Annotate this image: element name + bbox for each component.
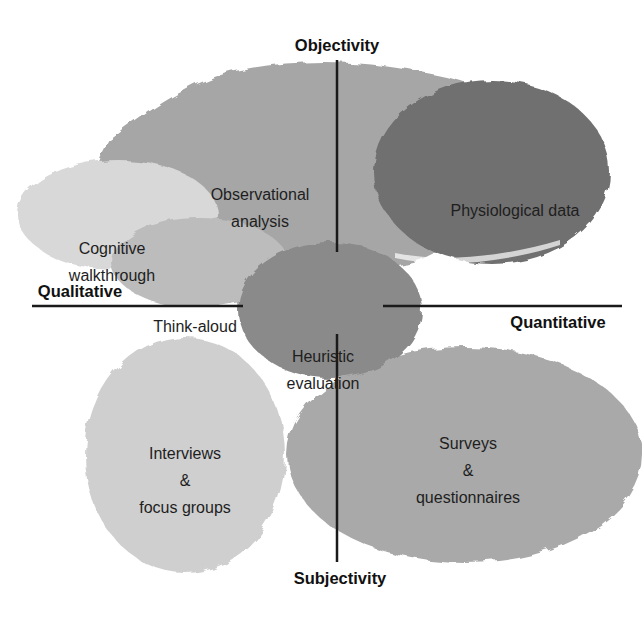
label-line: evaluation (287, 370, 360, 397)
axis-label-quantitative: Quantitative (510, 313, 605, 332)
label-surveys-questionnaires: Surveys & questionnaires (416, 430, 520, 511)
label-heuristic-evaluation: Heuristic evaluation (287, 343, 360, 397)
axis-label-objectivity: Objectivity (295, 36, 379, 55)
label-observational-analysis: Observational analysis (211, 181, 310, 235)
label-line: analysis (211, 208, 310, 235)
label-line: questionnaires (416, 484, 520, 511)
label-physiological-data: Physiological data (451, 197, 580, 224)
label-line: walkthrough (69, 262, 155, 289)
blob-physiological-data (374, 80, 610, 264)
label-line: & (139, 467, 231, 494)
label-line: Heuristic (287, 343, 360, 370)
label-line: & (416, 457, 520, 484)
label-interviews-focus-groups: Interviews & focus groups (139, 440, 231, 521)
axis-label-subjectivity: Subjectivity (294, 569, 387, 588)
label-line: focus groups (139, 494, 231, 521)
label-line: Think-aloud (153, 313, 237, 340)
label-line: Surveys (416, 430, 520, 457)
label-think-aloud: Think-aloud (153, 313, 237, 340)
label-line: Interviews (139, 440, 231, 467)
label-line: Physiological data (451, 197, 580, 224)
label-line: Cognitive (69, 235, 155, 262)
label-cognitive-walkthrough: Cognitive walkthrough (69, 235, 155, 289)
label-line: Observational (211, 181, 310, 208)
diagram-canvas (0, 0, 642, 620)
